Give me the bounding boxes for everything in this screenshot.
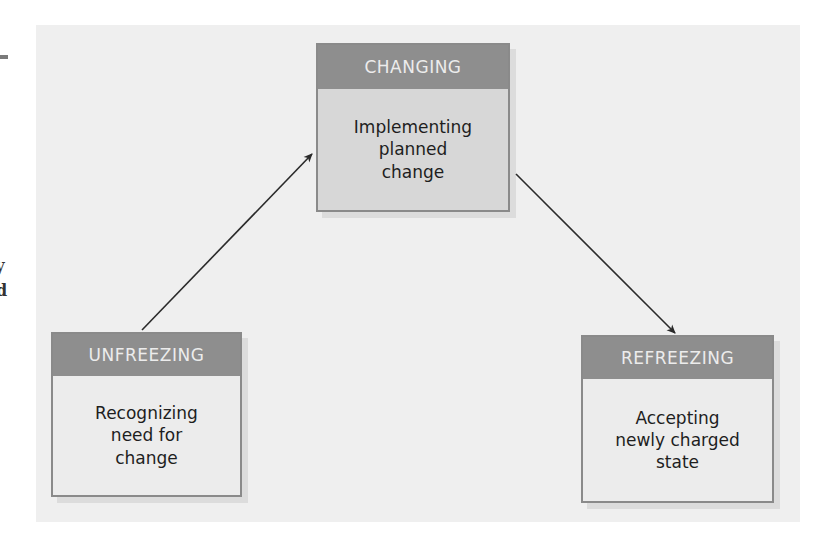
margin-rule-fragment bbox=[0, 55, 8, 59]
stage-title: CHANGING bbox=[318, 45, 508, 89]
stage-box-refreezing: REFREEZING Accepting newly charged state bbox=[581, 335, 774, 503]
stage-description: Implementing planned change bbox=[318, 89, 508, 210]
stage-title: REFREEZING bbox=[583, 337, 772, 379]
stage-description: Recognizing need for change bbox=[53, 376, 240, 495]
stage-description: Accepting newly charged state bbox=[583, 379, 772, 501]
margin-text-fragment: y bbox=[0, 258, 5, 274]
stage-box-unfreezing: UNFREEZING Recognizing need for change bbox=[51, 332, 242, 497]
stage-box-changing: CHANGING Implementing planned change bbox=[316, 43, 510, 212]
margin-text-fragment: d bbox=[0, 283, 7, 299]
stage-title: UNFREEZING bbox=[53, 334, 240, 376]
